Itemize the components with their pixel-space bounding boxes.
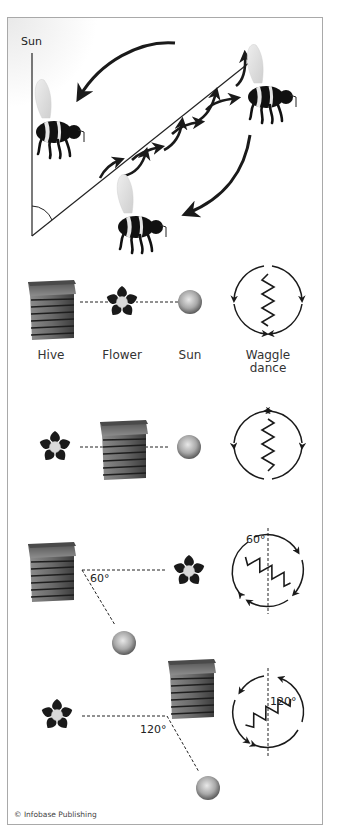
legend-hive-label: Hive	[28, 349, 74, 362]
hive-icon	[168, 659, 216, 719]
angle-label-60: 60°	[90, 572, 110, 585]
angle-label-120: 120°	[140, 723, 167, 736]
legend-waggle-line2: dance	[238, 362, 298, 375]
legend-waggle-label: Waggle dance	[238, 349, 298, 375]
sun-icon	[177, 435, 201, 459]
legend-sun-label: Sun	[170, 349, 210, 362]
sun-icon	[196, 776, 220, 800]
dance-angle-label-120: 120°	[270, 695, 297, 708]
waggle-dance-icon-120	[233, 668, 304, 758]
hive-icon	[100, 420, 148, 480]
return-arrow-top	[80, 43, 175, 96]
hive-icon	[28, 280, 76, 340]
legend-flower-label: Flower	[96, 349, 148, 362]
waggle-dance-icon	[234, 411, 302, 479]
waggle-dance-icon	[234, 266, 302, 334]
return-arrow-right	[188, 135, 250, 213]
hive-icon	[28, 542, 76, 602]
bee-icon	[35, 79, 84, 158]
sun-reference-line	[32, 53, 250, 236]
bee-icon	[117, 174, 166, 253]
flower-icon	[172, 555, 205, 587]
flower-icon	[40, 699, 73, 731]
waggle-dance-icon-60	[232, 528, 303, 614]
waggle-run-arrows	[100, 55, 245, 178]
diagram-canvas	[0, 0, 341, 839]
dance-angle-label-60: 60°	[246, 533, 266, 546]
flower-icon	[38, 431, 71, 463]
sun-icon	[112, 631, 136, 655]
copyright-notice: © Infobase Publishing	[14, 810, 97, 819]
sun-label: Sun	[21, 35, 42, 48]
bee-icon	[247, 44, 296, 123]
sun-icon	[178, 290, 202, 314]
